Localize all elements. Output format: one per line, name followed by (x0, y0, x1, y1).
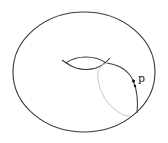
torus-diagram: p (0, 0, 168, 143)
point-p-marker (132, 80, 135, 83)
torus-hole-lower-arc (62, 58, 110, 70)
torus-hole-upper-arc (66, 57, 106, 63)
point-p-marker-secondary (134, 85, 136, 87)
meridian-front-arc (107, 63, 138, 113)
torus-outer-outline (13, 12, 155, 132)
point-p-label: p (138, 72, 145, 85)
